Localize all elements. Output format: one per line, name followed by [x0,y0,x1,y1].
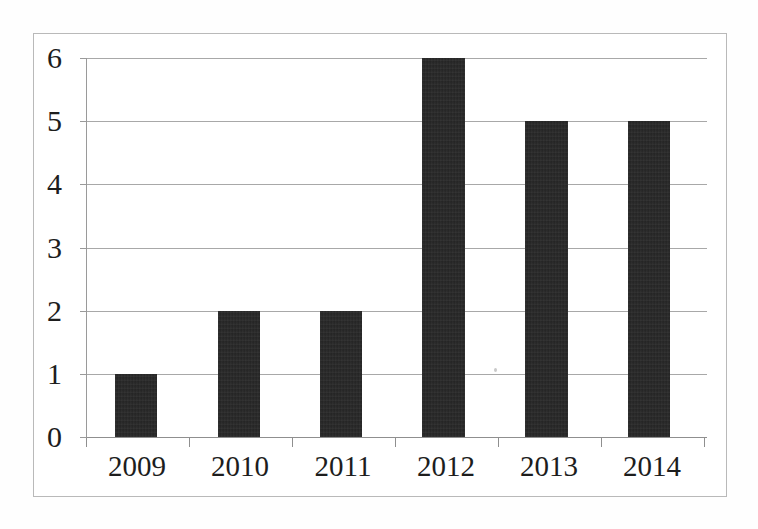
gridline-5 [86,121,707,122]
x-axis-label-2012: 2012 [386,449,506,483]
y-tick-mark-3 [80,248,87,249]
x-tick-mark-4 [498,438,499,447]
y-tick-mark-6 [80,58,87,59]
y-tick-mark-5 [80,121,87,122]
y-tick-mark-4 [80,184,87,185]
x-axis-line [86,437,707,438]
y-axis-label-2: 2 [28,296,62,326]
bar-2009 [115,374,157,437]
x-axis-label-2013: 2013 [489,449,609,483]
y-axis-label-4: 4 [28,169,62,199]
x-axis-label-2011: 2011 [283,449,403,483]
gridline-1 [86,374,707,375]
y-tick-mark-1 [80,374,87,375]
y-axis-label-1: 1 [28,359,62,389]
bar-2014 [628,121,670,437]
x-axis-label-2014: 2014 [592,449,712,483]
gridline-3 [86,248,707,249]
bar-chart-figure: 6 5 4 3 2 1 0 2009 2010 2011 2012 2013 2… [0,0,758,529]
bar-2013 [525,121,568,437]
x-tick-mark-3 [395,438,396,447]
y-axis-label-3: 3 [28,233,62,263]
plot-area [86,58,707,437]
bar-2011 [320,311,362,437]
gridline-6 [86,58,707,59]
gridline-2 [86,311,707,312]
bar-2010 [218,311,260,437]
x-tick-mark-5 [601,438,602,447]
x-tick-mark-2 [292,438,293,447]
y-axis-label-0: 0 [28,422,62,452]
scan-speck [494,368,497,372]
y-axis-label-5: 5 [28,106,62,136]
x-axis-label-2009: 2009 [77,449,197,483]
x-axis-label-2010: 2010 [180,449,300,483]
gridline-4 [86,184,707,185]
y-axis-label-6: 6 [28,43,62,73]
x-tick-mark-0 [86,438,87,447]
x-tick-mark-6 [704,438,705,447]
x-tick-mark-1 [189,438,190,447]
bar-2012 [422,58,465,437]
y-tick-mark-2 [80,311,87,312]
